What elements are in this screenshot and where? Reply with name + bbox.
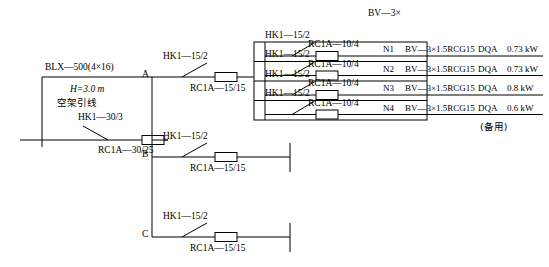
circuit-1-wiring-label: BV—3×1.5RCG15: [405, 45, 475, 54]
circuit-4-load-code-label: DQA: [478, 104, 498, 113]
branch-b-fuse-body: [215, 153, 237, 162]
main-switch-label: HK1—30/3: [78, 113, 123, 123]
single-line-diagram: BLX—500(4×16) H=3.0 m 空架引线 HK1—30/3 RC1A…: [0, 0, 549, 267]
branch-c-fuse-body: [215, 233, 237, 242]
circuit-3-load-code-label: DQA: [478, 84, 498, 93]
main-switch-blade: [83, 126, 108, 140]
branch-a-switch-label: HK1—15/2: [163, 52, 208, 62]
branch-b-switch-blade: [182, 143, 207, 157]
circuit-4-id-label: N4: [383, 104, 394, 113]
branch-a-fuse-label: RC1A—15/15: [190, 84, 245, 94]
circuit-4-switch-label: HK1—15/2: [265, 89, 310, 99]
source-overhead-label: 空架引线: [57, 98, 97, 108]
circuit-2-id-label: N2: [383, 65, 394, 74]
node-label-b: B: [142, 150, 148, 160]
circuit-3-power-label: 0.8 kW: [507, 84, 534, 93]
circuit-3-switch-label: HK1—15/2: [265, 70, 310, 80]
branch-a-switch-blade: [182, 63, 207, 77]
circuit-3-id-label: N3: [383, 84, 394, 93]
circuit-2-power-label: 0.73 kW: [507, 65, 538, 74]
circuit-2-wiring-label: BV—3×1.5RCG15: [405, 65, 475, 74]
branch-b-fuse-label: RC1A—15/15: [190, 164, 245, 174]
node-label-c: C: [142, 230, 148, 240]
branch-c-switch-label: HK1—15/2: [163, 212, 208, 222]
source-cable-label: BLX—500(4×16): [45, 63, 114, 73]
circuit-3-fuse-label: RC1A—10/4: [308, 79, 359, 89]
panel-header-label: BV—3×: [368, 9, 401, 19]
circuit-1-id-label: N1: [383, 45, 394, 54]
circuit-4-fuse-label: RC1A—10/4: [308, 99, 359, 109]
circuit-1-power-label: 0.73 kW: [507, 45, 538, 54]
branch-c-switch-blade: [182, 223, 207, 237]
circuit-1-switch-label: HK1—15/2: [265, 31, 310, 41]
circuit-2-fuse-label: RC1A—10/4: [308, 60, 359, 70]
branch-a-fuse-body: [215, 73, 237, 82]
source-height-label: H=3.0 m: [70, 85, 104, 95]
branch-b-switch-label: HK1—15/2: [163, 132, 208, 142]
circuit-2-load-code-label: DQA: [478, 65, 498, 74]
branch-c-fuse-label: RC1A—15/15: [190, 244, 245, 254]
spare-note-label: (备用): [480, 122, 507, 132]
circuit-4-wiring-label: BV—3×1.5RCG15: [405, 104, 475, 113]
circuit-2-switch-label: HK1—15/2: [265, 50, 310, 60]
circuit-3-wiring-label: BV—3×1.5RCG15: [405, 84, 475, 93]
circuit-1-fuse-label: RC1A—10/4: [308, 40, 359, 50]
circuit-4-power-label: 0.6 kW: [507, 104, 534, 113]
circuit-4-fuse-body: [316, 110, 338, 119]
node-label-a: A: [142, 70, 149, 80]
circuit-1-load-code-label: DQA: [478, 45, 498, 54]
